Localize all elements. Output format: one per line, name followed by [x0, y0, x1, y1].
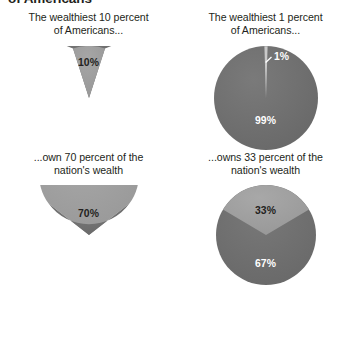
panel-1-caption-line1: The wealthiest 10 percent — [28, 11, 148, 24]
panel-2-caption-line2: of Americans... — [208, 24, 322, 37]
pie-chart-70-30: 70% 30% — [39, 185, 139, 285]
figure-title: of Americans — [8, 0, 92, 6]
pie-label-70: 70% — [78, 208, 99, 219]
pie-svg-1-99 — [214, 46, 318, 150]
pie-slice-10 — [73, 46, 105, 98]
figure-title-clip: of Americans — [0, 0, 354, 9]
panel-4-caption: ...owns 33 percent of the nation's wealt… — [200, 150, 331, 181]
panel-3-caption-line2: nation's wealth — [34, 164, 144, 177]
pie-label-1: 1% — [274, 51, 289, 62]
panel-3-caption-line1: ...own 70 percent of the — [34, 151, 144, 164]
pie-label-10: 10% — [78, 57, 99, 68]
pie-chart-grid: The wealthiest 10 percent of Americans..… — [0, 11, 354, 285]
pie-label-67: 67% — [255, 258, 276, 269]
pie-label-90: 90% — [78, 115, 99, 126]
pie-label-30: 30% — [78, 260, 99, 271]
panel-1-caption-line2: of Americans... — [28, 24, 148, 37]
panel-own-70-percent: ...own 70 percent of the nation's wealth — [0, 150, 177, 285]
pie-chart-33-67: 33% 67% — [216, 185, 316, 285]
panel-1-caption: The wealthiest 10 percent of Americans..… — [20, 11, 156, 41]
panel-wealthiest-10-percent: The wealthiest 10 percent of Americans..… — [0, 11, 177, 150]
pie-chart-1-99: 1% 99% — [214, 46, 318, 150]
panel-3-caption: ...own 70 percent of the nation's wealth — [26, 150, 152, 181]
pie-label-99: 99% — [255, 115, 276, 126]
pie-label-33: 33% — [255, 205, 276, 216]
panel-4-caption-line1: ...owns 33 percent of the — [208, 151, 323, 164]
panel-4-caption-line2: nation's wealth — [208, 164, 323, 177]
panel-owns-33-percent: ...owns 33 percent of the nation's wealt… — [177, 150, 354, 285]
panel-2-caption: The wealthiest 1 percent of Americans... — [200, 11, 330, 41]
pie-chart-10-90: 10% 90% — [37, 46, 141, 150]
panel-2-caption-line1: The wealthiest 1 percent — [208, 11, 322, 24]
pie-svg-33-67 — [216, 185, 316, 285]
panel-wealthiest-1-percent: The wealthiest 1 percent of Americans...… — [177, 11, 354, 150]
